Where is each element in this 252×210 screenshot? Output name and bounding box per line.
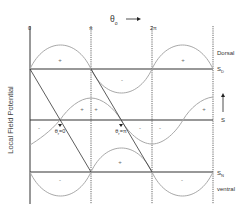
tick-label-2pi: 2π xyxy=(150,26,157,32)
region-label-dorsal: Dorsal xyxy=(217,50,234,56)
sign-top-3: + xyxy=(181,57,185,63)
marker-0-value: =0 xyxy=(59,128,65,134)
row-label-sn-sub: N xyxy=(221,173,224,178)
sign-middle-5: - xyxy=(159,125,161,131)
marker-1-value: =π xyxy=(120,128,127,134)
sign-middle-6: + xyxy=(202,106,206,112)
marker-arrow-theta-r-pi xyxy=(119,124,123,127)
marker-theta-r-pi: θr=π xyxy=(115,128,126,136)
y-axis-label: Local Field Potential xyxy=(6,86,15,154)
marker-arrow-theta-r-0 xyxy=(58,124,62,127)
region-label-ventral: ventral xyxy=(217,186,235,192)
row-label-sd: SD xyxy=(217,66,224,74)
sign-middle-1: - xyxy=(38,125,40,131)
title-arrow-head xyxy=(137,17,141,21)
sign-bottom-3: - xyxy=(181,177,183,183)
sign-top-2: - xyxy=(121,77,123,83)
sign-middle-2: + xyxy=(80,106,84,112)
sign-top-1: + xyxy=(58,57,62,63)
sign-bottom-1: - xyxy=(59,177,61,183)
lfp-phase-diagram xyxy=(0,0,252,210)
row-label-sn: SN xyxy=(217,170,224,178)
phase-axis-title: θo xyxy=(110,14,118,26)
s-arrow-head xyxy=(221,93,225,97)
sign-middle-4: - xyxy=(139,125,141,131)
marker-theta-r-0: θr=0 xyxy=(55,128,66,136)
sign-bottom-2: + xyxy=(118,159,122,165)
tick-label-pi: π xyxy=(89,26,93,32)
sign-middle-3: + xyxy=(94,106,98,112)
tick-label-0: 0 xyxy=(28,26,31,32)
row-label-sd-sub: D xyxy=(221,69,224,74)
title-subscript: o xyxy=(115,20,118,26)
row-label-s: S xyxy=(221,117,225,123)
